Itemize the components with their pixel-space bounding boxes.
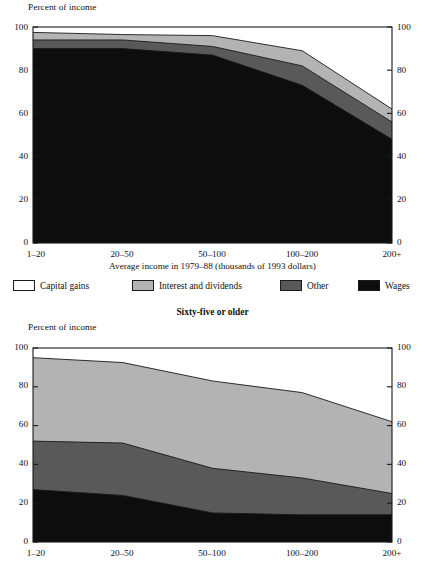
legend-swatch-capital-gains (13, 280, 35, 291)
plot-area-sixty-five-or-older (0, 320, 425, 550)
xtick-bottom-20-50: 20–50 (92, 548, 152, 558)
ytick2-left-0: 0 (4, 536, 28, 546)
ytick2-right-0: 0 (397, 536, 402, 546)
chart-legend: Capital gains Interest and dividends Oth… (0, 280, 425, 296)
legend-item-interest-and-dividends: Interest and dividends (132, 280, 242, 291)
legend-label-capital-gains: Capital gains (40, 281, 89, 291)
xtick-top-50-100: 50–100 (182, 249, 242, 259)
ytick2-left-40: 40 (4, 458, 28, 468)
ytick-right-80: 80 (397, 65, 406, 75)
ytick-right-40: 40 (397, 151, 406, 161)
ytick-left-20: 20 (4, 194, 28, 204)
ytick2-left-20: 20 (4, 497, 28, 507)
ytick2-left-80: 80 (4, 380, 28, 390)
legend-item-wages: Wages (358, 280, 410, 291)
legend-label-wages: Wages (385, 281, 410, 291)
legend-item-other: Other (280, 280, 328, 291)
legend-label-interest-and-dividends: Interest and dividends (159, 281, 242, 291)
xtick-top-200plus: 200+ (362, 249, 422, 259)
legend-swatch-interest-and-dividends (132, 280, 154, 291)
xtick-bottom-1-20: 1–20 (6, 548, 66, 558)
ytick2-right-40: 40 (397, 458, 406, 468)
ytick2-right-20: 20 (397, 497, 406, 507)
ytick-right-100: 100 (397, 22, 411, 32)
ytick2-left-60: 60 (4, 419, 28, 429)
xtick-bottom-100-200: 100–200 (272, 548, 332, 558)
panel-title-sixty-five-or-older: Sixty-five or older (0, 307, 425, 317)
ytick2-right-80: 80 (397, 380, 406, 390)
ytick-left-40: 40 (4, 151, 28, 161)
legend-label-other: Other (307, 281, 328, 291)
x-axis-title-top: Average income in 1979–88 (thousands of … (0, 261, 425, 271)
ytick-left-80: 80 (4, 65, 28, 75)
ytick-right-20: 20 (397, 194, 406, 204)
plot-area-under-sixty-five (0, 0, 425, 245)
ytick-left-0: 0 (4, 237, 28, 247)
ytick2-right-100: 100 (397, 342, 411, 352)
legend-item-capital-gains: Capital gains (13, 280, 89, 291)
ytick-left-60: 60 (4, 108, 28, 118)
xtick-top-100-200: 100–200 (272, 249, 332, 259)
ytick-right-60: 60 (397, 108, 406, 118)
ytick2-left-100: 100 (4, 342, 28, 352)
xtick-top-1-20: 1–20 (6, 249, 66, 259)
ytick2-right-60: 60 (397, 419, 406, 429)
legend-swatch-other (280, 280, 302, 291)
xtick-bottom-50-100: 50–100 (182, 548, 242, 558)
ytick-right-0: 0 (397, 237, 402, 247)
xtick-top-20-50: 20–50 (92, 249, 152, 259)
xtick-bottom-200plus: 200+ (362, 548, 422, 558)
ytick-left-100: 100 (4, 22, 28, 32)
legend-swatch-wages (358, 280, 380, 291)
